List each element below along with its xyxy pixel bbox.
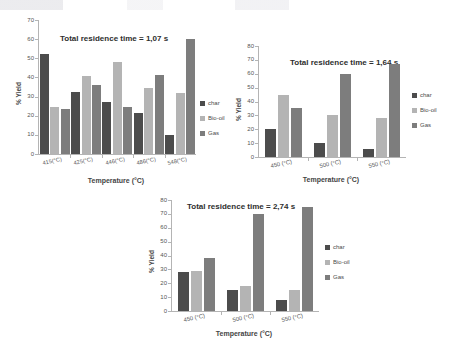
x-tick-label: 548(°C) — [167, 156, 187, 166]
x-tick-mark — [270, 311, 271, 315]
bar-group — [133, 20, 164, 154]
y-tick-label: 50 — [12, 55, 34, 61]
chart-2-y-axis-label: % Yield — [235, 90, 242, 130]
bar-bio-oil — [176, 93, 185, 154]
y-tick-label: 50 — [232, 84, 254, 90]
y-tick-label: 30 — [145, 266, 167, 272]
bar-gas — [389, 64, 400, 157]
x-tick-label: 450 (°C) — [270, 158, 292, 168]
x-tick-mark — [133, 154, 134, 158]
legend-label: Gas — [420, 122, 431, 128]
y-tick-label: 80 — [145, 197, 167, 203]
y-tick-label: 40 — [12, 74, 34, 80]
bar-gas — [204, 258, 215, 311]
x-tick-mark — [165, 154, 166, 158]
bar-bio-oil — [278, 95, 289, 157]
chart-3-y-axis-label: % Yield — [148, 242, 155, 282]
y-tick-label: 30 — [232, 112, 254, 118]
chart-2-legend: charBio-oilGas — [412, 92, 437, 137]
legend-swatch-icon — [325, 260, 330, 265]
x-tick-mark — [357, 157, 358, 161]
bar-gas — [302, 207, 313, 311]
chart-3-x-axis — [171, 311, 319, 312]
chart-2-x-axis — [258, 157, 406, 158]
legend-swatch-icon — [412, 93, 417, 98]
y-tick-label: 20 — [145, 280, 167, 286]
y-tick-label: 80 — [232, 43, 254, 49]
x-tick-label: 486(°C) — [136, 156, 156, 166]
chart-1-plot-area — [39, 20, 196, 154]
bar-gas — [61, 109, 70, 154]
legend-item-gas: Gas — [325, 274, 350, 280]
chart-panel-1: Total residence time = 1,07 s % Yield Te… — [8, 12, 230, 190]
bar-char — [178, 272, 189, 311]
legend-swatch-icon — [412, 108, 417, 113]
legend-label: char — [208, 100, 220, 106]
bar-group — [221, 200, 270, 311]
bar-group — [308, 46, 357, 157]
bar-bio-oil — [144, 88, 153, 154]
chart-panel-3: Total residence time = 2,74 s % Yield Te… — [145, 196, 367, 348]
y-tick-label: 0 — [232, 154, 254, 160]
legend-label: Gas — [208, 130, 219, 136]
legend-label: Bio-oil — [333, 259, 350, 265]
x-tick-label: 415(°C) — [42, 156, 62, 166]
bar-gas — [186, 39, 195, 154]
legend-swatch-icon — [200, 101, 205, 106]
chart-1-x-axis-label: Temperature (°C) — [36, 177, 196, 184]
bar-gas — [92, 85, 101, 154]
legend-item-bio-oil: Bio-oil — [325, 259, 350, 265]
bar-char — [165, 135, 174, 154]
bar-bio-oil — [50, 107, 59, 154]
legend-item-char: char — [412, 92, 437, 98]
bar-char — [102, 102, 111, 154]
y-tick-label: 70 — [232, 56, 254, 62]
legend-swatch-icon — [200, 116, 205, 121]
bar-group — [70, 20, 101, 154]
x-tick-mark — [102, 154, 103, 158]
bar-char — [227, 290, 238, 311]
chart-3-x-axis-label: Temperature (°C) — [169, 330, 319, 337]
bar-bio-oil — [113, 62, 122, 154]
chart-3-plot-area — [172, 200, 319, 311]
legend-item-bio-oil: Bio-oil — [200, 115, 225, 121]
bar-gas — [253, 214, 264, 311]
legend-item-char: char — [325, 244, 350, 250]
legend-item-gas: Gas — [200, 130, 225, 136]
legend-label: char — [420, 92, 432, 98]
bar-gas — [340, 74, 351, 157]
chart-2-x-axis-label: Temperature (°C) — [256, 176, 406, 183]
chart-3-legend: charBio-oilGas — [325, 244, 350, 289]
y-tick-label: 70 — [12, 17, 34, 23]
bar-char — [40, 54, 49, 154]
legend-swatch-icon — [325, 245, 330, 250]
y-tick-label: 30 — [12, 93, 34, 99]
bar-group — [259, 46, 308, 157]
bar-char — [265, 129, 276, 157]
scan-artifact-strip — [0, 0, 452, 10]
x-tick-mark — [221, 311, 222, 315]
x-tick-label: 500 (°C) — [319, 158, 341, 168]
bar-gas — [291, 108, 302, 157]
bar-group — [39, 20, 70, 154]
legend-swatch-icon — [325, 275, 330, 280]
bar-bio-oil — [289, 290, 300, 311]
legend-label: Bio-oil — [420, 107, 437, 113]
bar-bio-oil — [191, 271, 202, 311]
y-tick-label: 10 — [232, 140, 254, 146]
y-tick-label: 50 — [145, 238, 167, 244]
legend-item-char: char — [200, 100, 225, 106]
y-tick-label: 40 — [232, 98, 254, 104]
y-tick-label: 60 — [12, 36, 34, 42]
y-tick-label: 0 — [12, 151, 34, 157]
bar-group — [172, 200, 221, 311]
y-tick-label: 0 — [145, 308, 167, 314]
x-tick-label: 550 (°C) — [368, 158, 390, 168]
x-tick-label: 446(°C) — [105, 156, 125, 166]
bar-group — [102, 20, 133, 154]
legend-item-bio-oil: Bio-oil — [412, 107, 437, 113]
bar-group — [165, 20, 196, 154]
bar-bio-oil — [240, 286, 251, 311]
bar-char — [314, 143, 325, 157]
y-tick-label: 10 — [12, 131, 34, 137]
